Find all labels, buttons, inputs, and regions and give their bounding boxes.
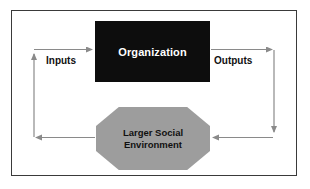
env-label-line-2: Environment: [124, 139, 182, 150]
env-label-line-1: Larger Social: [123, 127, 183, 138]
organization-label: Organization: [118, 46, 186, 58]
outputs-label: Outputs: [214, 55, 252, 66]
inputs-label: Inputs: [46, 55, 76, 66]
organization-node: Organization: [95, 21, 210, 82]
diagram-canvas: Organization Larger Social Environment I…: [0, 0, 310, 189]
larger-social-environment-label: Larger Social Environment: [123, 127, 183, 151]
larger-social-environment-node: Larger Social Environment: [96, 107, 210, 170]
